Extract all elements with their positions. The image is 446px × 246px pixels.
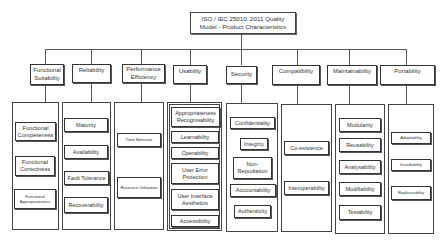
sub-testability: Testability <box>339 205 381 220</box>
sub-modifiability: Modifiability <box>339 182 381 196</box>
sub-learnability: Learnability <box>171 131 219 143</box>
connector-2-up <box>91 49 92 65</box>
sub-recoverability: Recoverability <box>64 197 108 213</box>
category-maintainability: Maintainability <box>327 65 377 85</box>
sub-analysability: Analysability <box>339 160 381 174</box>
column-performance-efficiency <box>114 102 164 230</box>
connector-5-up <box>241 49 242 65</box>
connector-8-up <box>406 49 407 65</box>
sub-modularity: Modularity <box>339 118 381 132</box>
connector-7-down <box>349 85 350 104</box>
connector-6-up <box>297 49 298 65</box>
category-security: Security <box>226 66 257 84</box>
sub-fault-tolerance: Fault Tolerance <box>64 171 109 185</box>
sub-reusability: Reusability <box>339 138 381 152</box>
category-compatibility: Compatibility <box>272 65 320 85</box>
root-node-title: ISO / IEC 25010: 2011 Quality Model - Pr… <box>190 12 296 34</box>
connector-5-down <box>241 84 242 103</box>
sub-user-interface-aesthetics: User Interface Aesthetics <box>171 189 219 210</box>
sub-time-behavior: Time Behavior <box>117 133 161 147</box>
sub-appropriateness-recognisability: Appropriateness Recognisability <box>171 107 220 127</box>
category-usability: Usability <box>173 65 207 84</box>
sub-adaptability: Adaptability <box>391 132 431 144</box>
sub-user-error-protection: User Error Protection <box>171 163 219 184</box>
category-reliability: Reliability <box>72 64 111 83</box>
category-performance-efficiency: Performance Efficiency <box>122 64 165 83</box>
sub-installability: Installability <box>391 159 431 171</box>
sub-resource-utilization: Resource Utilization <box>117 177 161 198</box>
sub-interoperability: Interoperability <box>284 181 329 195</box>
category-functional-suitability: Functional Suitability <box>30 64 64 85</box>
sub-availability: Availability <box>64 145 108 159</box>
sub-replaceability: Replaceability <box>391 186 431 200</box>
column-compatibility <box>281 104 332 232</box>
sub-co-existence: Co-existence <box>284 141 329 155</box>
connector-1-up <box>45 49 46 65</box>
connector-horizontal-bus <box>45 49 406 50</box>
connector-4-down <box>190 84 191 102</box>
sub-accessibility: Accessibility <box>171 215 219 227</box>
sub-maturity: Maturity <box>64 118 108 132</box>
sub-confidentiality: Confidentiality <box>230 117 275 129</box>
connector-4-up <box>190 49 191 65</box>
connector-7-up <box>349 49 350 65</box>
sub-integrity: Integrity <box>240 138 268 150</box>
category-portability: Portability <box>380 65 435 85</box>
connector-1-down <box>45 85 46 102</box>
sub-non-repudiation: Non-Repudiation <box>233 157 272 179</box>
sub-operability: Operability <box>171 147 219 159</box>
sub-accountability: Accountability <box>230 184 276 197</box>
connector-3-up <box>141 49 142 65</box>
connector-root-down <box>241 34 242 50</box>
connector-3-down <box>141 83 142 102</box>
connector-8-down <box>406 85 407 104</box>
sub-functional-appropriateness: Functional Appropriateness <box>14 189 56 209</box>
sub-functional-completeness: Functional Completeness <box>15 122 56 141</box>
connector-6-down <box>297 85 298 104</box>
connector-2-down <box>91 83 92 102</box>
sub-functional-correctness: Functional Correctness <box>15 156 55 176</box>
sub-authenticity: Authenticity <box>234 205 271 218</box>
